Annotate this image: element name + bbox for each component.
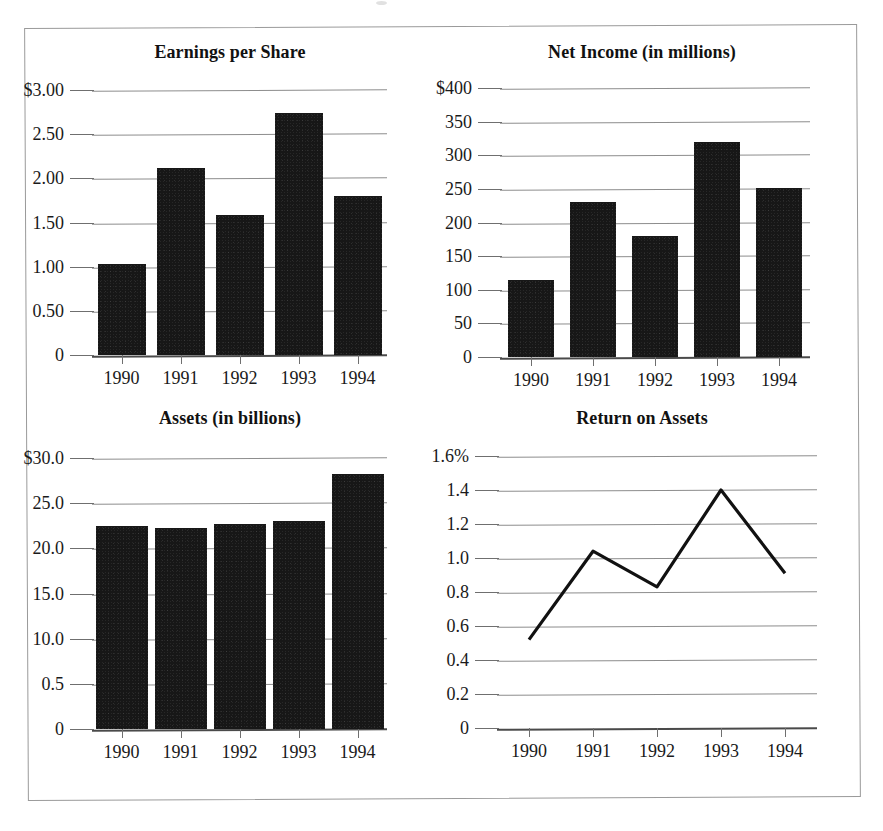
y-tick-dash [475,558,499,559]
x-tick-label-1992: 1992 [639,741,675,762]
x-tick-label-1994: 1994 [340,368,376,389]
y-tick-label: 0.8 [447,582,470,603]
x-tick-label-1991: 1991 [163,368,199,389]
y-tick-label: 200 [445,212,472,233]
y-tick-label: 1.0 [447,548,470,569]
chart-title-net-income: Net Income (in millions) [432,42,852,63]
y-tick-label: $400 [436,78,472,99]
x-tick-label-1990: 1990 [511,741,547,762]
x-tick-mark [240,355,241,364]
y-tick-dash [478,290,502,291]
y-tick-label: 0 [55,719,64,740]
x-tick-mark [122,355,123,364]
y-tick-label: 0.50 [33,300,65,321]
x-tick-label-1990: 1990 [513,370,549,391]
x-tick-mark [785,728,786,737]
x-tick-label-1990: 1990 [104,368,140,389]
bar-net-income-1992 [632,236,678,357]
y-tick-label: 0.2 [447,684,470,705]
y-tick-label: 1.6% [432,446,470,467]
x-tick-label-1994: 1994 [340,742,376,763]
x-tick-label-1993: 1993 [703,741,739,762]
y-tick-dash [475,490,499,491]
x-tick-mark [122,729,123,738]
y-tick-dash [478,256,502,257]
chart-panel-net-income: Net Income (in millions)$400350300250200… [432,42,852,392]
y-tick-label: 150 [445,246,472,267]
plot-area-assets: $30.025.020.015.010.00.50199019911992199… [92,458,387,729]
y-tick-dash [70,267,94,268]
y-tick-dash [70,729,94,730]
plot-area-earnings-per-share: $3.002.502.001.501.000.50019901991199219… [92,90,387,355]
y-tick-label: 0.6 [447,616,470,637]
x-tick-mark [299,355,300,364]
y-tick-dash [478,155,502,156]
x-tick-label-1992: 1992 [222,742,258,763]
y-tick-dash [478,189,502,190]
bar-assets-1992 [214,524,266,729]
y-tick-dash [70,134,94,135]
chart-title-assets: Assets (in billions) [30,408,430,429]
x-tick-mark [779,357,780,366]
y-tick-dash [70,458,94,459]
chart-title-earnings-per-share: Earnings per Share [30,42,430,63]
y-tick-dash [70,684,94,685]
x-tick-mark [240,729,241,738]
x-tick-label-1993: 1993 [699,370,735,391]
gridline [500,155,810,157]
charts-grid: Earnings per Share$3.002.502.001.501.000… [0,0,883,831]
y-tick-dash [70,548,94,549]
bar-net-income-1991 [570,202,616,357]
bar-earnings-per-share-1991 [157,168,205,355]
bar-assets-1990 [96,526,148,729]
x-tick-mark [531,357,532,366]
y-tick-label: 1.50 [33,212,65,233]
bar-earnings-per-share-1992 [216,215,264,355]
x-tick-mark [299,729,300,738]
x-tick-mark [358,729,359,738]
bar-net-income-1993 [694,142,740,357]
x-tick-label-1991: 1991 [575,370,611,391]
y-tick-label: 15.0 [33,583,65,604]
y-tick-dash [70,311,94,312]
chart-panel-earnings-per-share: Earnings per Share$3.002.502.001.501.000… [30,42,430,392]
y-tick-label: 1.2 [447,514,470,535]
x-tick-label-1991: 1991 [575,741,611,762]
y-tick-dash [478,88,502,89]
x-tick-mark [358,355,359,364]
line-series-return-on-assets [497,456,817,728]
bar-assets-1991 [155,528,207,729]
y-tick-label: 25.0 [33,493,65,514]
y-tick-label: 0 [460,718,469,739]
y-tick-dash [478,223,502,224]
gridline [500,87,810,89]
x-tick-label-1992: 1992 [637,370,673,391]
gridline [92,178,387,180]
y-tick-label: 100 [445,279,472,300]
y-tick-label: $30.0 [24,448,65,469]
x-tick-label-1993: 1993 [281,368,317,389]
y-tick-label: 300 [445,145,472,166]
bar-net-income-1994 [756,188,802,357]
y-tick-dash [478,357,502,358]
x-tick-mark [721,728,722,737]
y-tick-label: 0.5 [42,673,65,694]
figure-page: Earnings per Share$3.002.502.001.501.000… [0,0,883,831]
y-tick-dash [475,660,499,661]
x-tick-label-1994: 1994 [761,370,797,391]
chart-panel-return-on-assets: Return on Assets1.6%1.41.21.00.80.60.40.… [432,408,852,763]
bar-net-income-1990 [508,280,554,357]
x-tick-mark [717,357,718,366]
y-tick-label: 1.00 [33,256,65,277]
bar-assets-1993 [273,521,325,729]
y-tick-dash [475,728,499,729]
x-tick-label-1992: 1992 [222,368,258,389]
y-tick-dash [475,694,499,695]
y-tick-label: 20.0 [33,538,65,559]
y-tick-dash [475,592,499,593]
plot-area-return-on-assets: 1.6%1.41.21.00.80.60.40.2019901991199219… [497,456,817,728]
y-tick-label: $3.00 [24,80,65,101]
y-tick-dash [475,456,499,457]
y-tick-label: 10.0 [33,628,65,649]
x-tick-label-1993: 1993 [281,742,317,763]
